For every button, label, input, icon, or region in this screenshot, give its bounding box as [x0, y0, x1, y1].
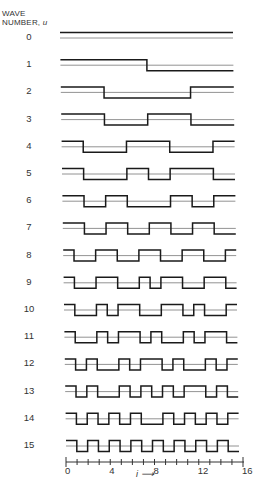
x-tick-label: 12	[198, 465, 209, 476]
x-axis-label: i ⟶	[136, 469, 154, 479]
x-tick-label: 4	[109, 465, 114, 476]
walsh-waveform-plot	[0, 0, 261, 495]
x-tick-label: 0	[65, 465, 70, 476]
arrow-right-icon: ⟶	[141, 469, 154, 479]
x-tick-label: 16	[242, 465, 253, 476]
x-tick-label: 8	[154, 465, 159, 476]
